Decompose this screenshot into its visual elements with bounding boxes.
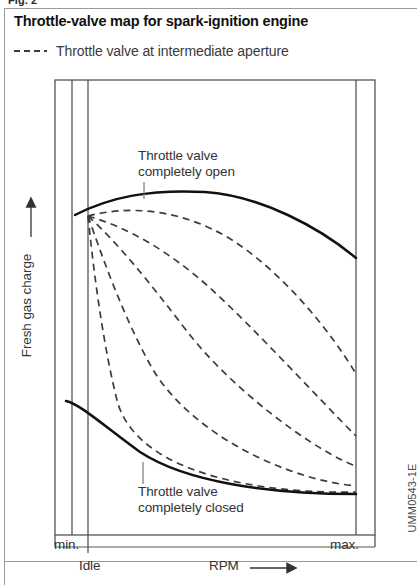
curve-intermediate-5 (88, 216, 356, 492)
curve-throttle-open (75, 191, 356, 258)
annotation-open-line1: Throttle valve (138, 148, 235, 164)
curves-throttle-intermediate (88, 210, 356, 492)
x-tick-label-min: min. (54, 537, 79, 552)
annotation-throttle-closed: Throttle valve completely closed (138, 484, 244, 516)
curve-intermediate-1 (88, 210, 356, 374)
curve-intermediate-3 (88, 216, 356, 466)
x-axis-ticks (55, 535, 375, 547)
x-tick-label-idle: Idle (79, 558, 100, 573)
rpm-arrow-icon (250, 564, 296, 573)
fresh-gas-charge-arrow-icon (27, 198, 36, 237)
curve-throttle-closed (66, 401, 356, 494)
y-axis-label: Fresh gas charge (19, 236, 34, 376)
annotation-leader-lines (143, 182, 144, 484)
curve-intermediate-2 (88, 216, 356, 436)
figure-page: Fig. 2 Throttle-valve map for spark-igni… (0, 0, 417, 585)
annotation-throttle-open: Throttle valve completely open (138, 148, 235, 180)
annotation-closed-line2: completely closed (138, 500, 244, 516)
x-axis-label: RPM (209, 558, 239, 573)
x-tick-label-max: max. (330, 537, 359, 552)
annotation-open-line2: completely open (138, 164, 235, 180)
figure-id-code: UMM0543-1E (406, 433, 417, 563)
annotation-closed-line1: Throttle valve (138, 484, 244, 500)
